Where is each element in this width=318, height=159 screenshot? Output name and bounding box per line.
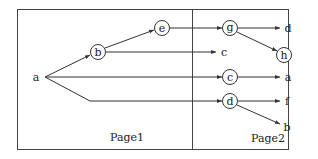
edge-d-b (237, 105, 280, 124)
page2-label: Page2 (251, 132, 285, 145)
node-a-label: a (33, 71, 40, 84)
node-d-label: d (226, 95, 233, 108)
leaf-c-a: a (285, 71, 292, 84)
tree-diagram: a b e g h c d d c a f b Page1 Page2 (0, 0, 318, 159)
node-e-label: e (159, 22, 166, 35)
edge-a-d (45, 77, 222, 101)
leaf-b-c: c (221, 46, 227, 59)
page1-label: Page1 (110, 131, 144, 144)
leaf-g-d: d (284, 22, 291, 35)
edge-b-e (105, 30, 154, 48)
node-d: d (223, 94, 238, 109)
node-c: c (223, 70, 238, 85)
leaf-d-f: f (285, 95, 290, 108)
node-g: g (223, 21, 238, 36)
node-h-label: h (280, 49, 287, 62)
edge-g-h (237, 32, 277, 51)
node-h: h (277, 48, 292, 63)
node-b-label: b (94, 46, 101, 59)
node-e: e (155, 21, 170, 36)
node-g-label: g (226, 21, 233, 34)
node-c-label: c (227, 71, 233, 84)
edge-a-b (45, 55, 90, 77)
node-b: b (91, 45, 106, 60)
